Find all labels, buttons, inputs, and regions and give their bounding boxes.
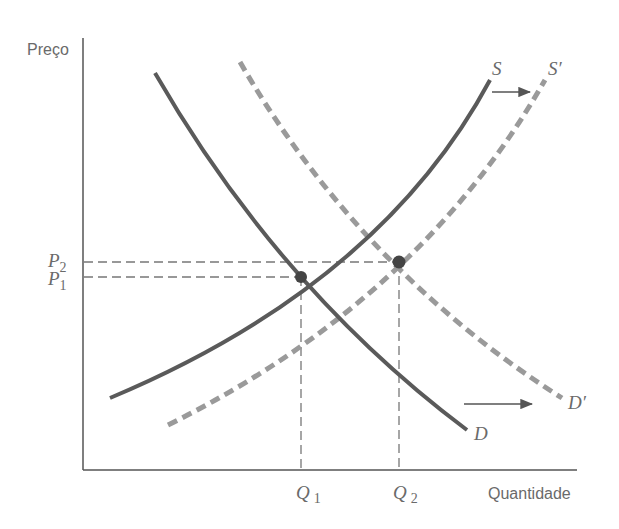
- demand-shifted-curve: [240, 62, 562, 398]
- x-axis-label: Quantidade: [488, 485, 571, 502]
- price-tick-p2-sub: 2: [60, 260, 67, 275]
- price-tick-p1-base: P: [47, 268, 60, 289]
- supply-curve: [110, 80, 490, 398]
- supply-shifted-curve: [168, 80, 545, 425]
- supply-label: S: [492, 58, 502, 79]
- equilibrium-point-1: [295, 271, 307, 283]
- quantity-tick-q1: Q1: [296, 482, 321, 506]
- equilibrium-point-2: [393, 256, 406, 269]
- quantity-tick-q1-sub: 1: [314, 491, 321, 506]
- quantity-tick-q2-sub: 2: [411, 491, 418, 506]
- price-tick-p1-sub: 1: [60, 278, 67, 293]
- supply-shifted-label: S′: [548, 58, 563, 79]
- demand-shifted-label: D′: [567, 392, 587, 413]
- quantity-tick-q2-base: Q: [393, 482, 407, 503]
- y-axis-label: Preço: [27, 41, 69, 58]
- supply-demand-diagram: Preço Quantidade P2 P1 Q1 Q2 S S′ D D′: [0, 0, 619, 529]
- quantity-tick-q1-base: Q: [296, 482, 310, 503]
- demand-label: D: [473, 423, 488, 444]
- demand-curve: [155, 73, 467, 430]
- quantity-tick-q2: Q2: [393, 482, 418, 506]
- equilibrium-guides: [84, 262, 399, 470]
